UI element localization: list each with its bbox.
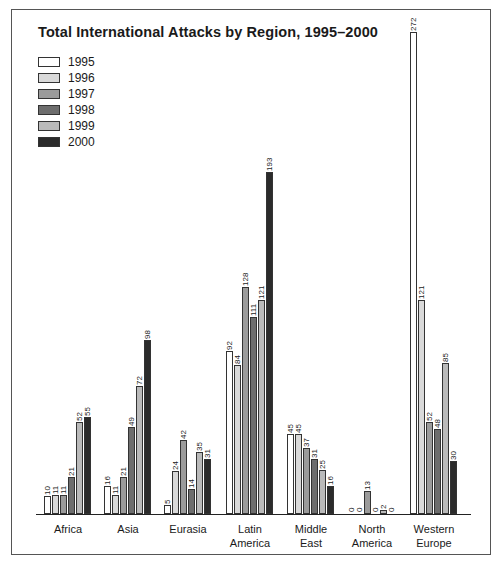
data-label: 55 bbox=[83, 404, 92, 416]
bar-north-america-1997 bbox=[364, 491, 371, 514]
data-label: 85 bbox=[441, 350, 450, 362]
data-label: 0 bbox=[387, 505, 396, 512]
bar-latin-america-2000 bbox=[266, 172, 273, 514]
bar-africa-1998 bbox=[68, 477, 75, 514]
bar-western-europe-1996 bbox=[418, 300, 425, 514]
plot-area: 101111215255Africa161121497298Asia524421… bbox=[0, 0, 500, 566]
data-label: 121 bbox=[257, 282, 266, 299]
data-label: 42 bbox=[179, 427, 188, 439]
data-label: 16 bbox=[326, 473, 335, 485]
bar-eurasia-1998 bbox=[188, 489, 195, 514]
bar-latin-america-1995 bbox=[226, 351, 233, 514]
bar-western-europe-2000 bbox=[450, 461, 457, 514]
data-label: 121 bbox=[417, 282, 426, 299]
bar-africa-1997 bbox=[60, 495, 67, 514]
bar-middle-east-1999 bbox=[319, 470, 326, 514]
data-label: 5 bbox=[163, 497, 172, 504]
data-label: 21 bbox=[119, 464, 128, 476]
x-tick-label: MiddleEast bbox=[276, 522, 346, 550]
bar-asia-1995 bbox=[104, 486, 111, 514]
x-axis-line bbox=[36, 514, 471, 515]
data-label: 0 bbox=[355, 505, 364, 512]
data-label: 31 bbox=[203, 446, 212, 458]
bar-asia-1997 bbox=[120, 477, 127, 514]
bar-eurasia-2000 bbox=[204, 459, 211, 514]
bar-eurasia-1995 bbox=[164, 505, 171, 514]
bar-africa-2000 bbox=[84, 417, 91, 514]
bar-eurasia-1997 bbox=[180, 440, 187, 514]
data-label: 45 bbox=[294, 421, 303, 433]
data-label: 84 bbox=[233, 352, 242, 364]
bar-asia-1996 bbox=[112, 495, 119, 514]
bar-latin-america-1996 bbox=[234, 365, 241, 514]
bar-middle-east-1995 bbox=[287, 434, 294, 514]
data-label: 49 bbox=[127, 414, 136, 426]
bar-asia-1998 bbox=[128, 427, 135, 514]
data-label: 14 bbox=[187, 476, 196, 488]
bar-eurasia-1999 bbox=[196, 452, 203, 514]
bar-western-europe-1999 bbox=[442, 363, 449, 514]
bar-middle-east-1997 bbox=[303, 448, 310, 514]
data-label: 92 bbox=[225, 338, 234, 350]
bar-western-europe-1995 bbox=[410, 32, 417, 514]
bar-latin-america-1998 bbox=[250, 317, 257, 514]
bar-western-europe-1997 bbox=[426, 422, 433, 514]
bar-asia-1999 bbox=[136, 386, 143, 514]
data-label: 272 bbox=[409, 14, 418, 31]
data-label: 11 bbox=[59, 482, 68, 494]
x-tick-label: NorthAmerica bbox=[337, 522, 407, 550]
data-label: 128 bbox=[241, 269, 250, 286]
bar-africa-1996 bbox=[52, 495, 59, 514]
bar-africa-1999 bbox=[76, 422, 83, 514]
bar-latin-america-1997 bbox=[242, 287, 249, 514]
data-label: 111 bbox=[249, 299, 258, 316]
data-label: 98 bbox=[143, 327, 152, 339]
data-label: 24 bbox=[171, 458, 180, 470]
data-label: 48 bbox=[433, 416, 442, 428]
bar-western-europe-1998 bbox=[434, 429, 441, 514]
data-label: 25 bbox=[318, 457, 327, 469]
data-label: 30 bbox=[449, 448, 458, 460]
data-label: 72 bbox=[135, 373, 144, 385]
bar-middle-east-1996 bbox=[295, 434, 302, 514]
x-tick-label: Eurasia bbox=[153, 522, 223, 536]
data-label: 11 bbox=[111, 482, 120, 494]
data-label: 13 bbox=[363, 478, 372, 490]
bar-north-america-1999 bbox=[380, 510, 387, 514]
x-tick-label: WesternEurope bbox=[399, 522, 469, 550]
data-label: 21 bbox=[67, 464, 76, 476]
x-tick-label: LatinAmerica bbox=[215, 522, 285, 550]
bar-middle-east-2000 bbox=[327, 486, 334, 514]
bar-eurasia-1996 bbox=[172, 471, 179, 514]
bar-africa-1995 bbox=[44, 496, 51, 514]
bar-asia-2000 bbox=[144, 340, 151, 514]
bar-middle-east-1998 bbox=[311, 459, 318, 514]
data-label: 193 bbox=[265, 154, 274, 171]
bar-latin-america-1999 bbox=[258, 300, 265, 514]
